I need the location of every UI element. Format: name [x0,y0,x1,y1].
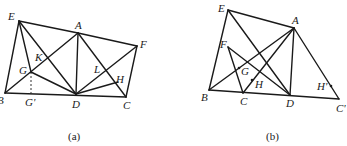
label-G: G [241,65,249,77]
label-H: H [115,73,125,85]
label-C: C [123,99,131,111]
caption-b: (b) [266,130,279,143]
label-A: A [74,19,82,31]
point-H-prime [330,85,333,88]
point-H [251,79,254,82]
label-C-prime: C' [336,102,346,114]
label-K: K [34,51,43,63]
geometry-diagram: E A F B D C G G' K L H (a) E A F G H B C… [0,0,347,146]
segment-GD [31,72,76,94]
label-B: B [0,94,4,106]
segment-BA [5,33,78,93]
segment-EA [228,10,294,28]
label-H-prime: H' [316,80,328,92]
label-E: E [217,2,225,14]
point-G [238,67,241,70]
label-D: D [285,97,294,109]
segment-AD [290,28,294,95]
segment-EB [5,21,19,93]
caption-a: (a) [68,130,81,143]
label-G-prime: G' [25,96,36,108]
label-A: A [291,14,299,26]
label-C: C [240,95,248,107]
label-E: E [7,10,15,22]
segment-BC [5,93,126,97]
figure-a: E A F B D C G G' K L H (a) [0,10,147,143]
segment-DH [76,82,118,94]
segment-AD [76,33,78,94]
label-H: H [254,78,264,90]
label-L: L [93,63,100,75]
label-F: F [219,38,227,50]
label-F: F [139,38,147,50]
label-B: B [201,91,208,103]
label-D: D [71,98,80,110]
label-G: G [19,64,27,76]
segment-AC [243,28,294,93]
figure-b: E A F G H B C D H' C' (b) [201,2,346,143]
